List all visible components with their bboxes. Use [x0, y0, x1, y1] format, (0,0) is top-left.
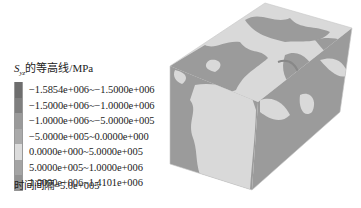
legend-item: −1.5854e+006~−1.5000e+006	[14, 82, 154, 98]
time-interval-label: 时间间隔=5.0e+005	[14, 177, 99, 192]
legend-item-label: −5.0000e+005~0.0000e+000	[29, 131, 149, 142]
legend-swatch	[14, 82, 23, 98]
legend-item: −1.5000e+006~−1.0000e+006	[14, 98, 154, 114]
legend-swatch	[14, 113, 23, 129]
legend-item-label: −1.5854e+006~−1.5000e+006	[29, 84, 154, 95]
legend-item-label: −1.0000e+006~−5.0000e+005	[29, 115, 154, 126]
legend-item: −1.0000e+006~−5.0000e+005	[14, 113, 154, 129]
legend-item: 5.0000e+005~1.0000e+006	[14, 160, 154, 176]
legend-swatch	[14, 160, 23, 176]
legend-swatch	[14, 144, 23, 160]
legend-title-text: 的等高线/MPa	[25, 62, 93, 74]
legend-item: 0.0000e+000~5.0000e+005	[14, 144, 154, 160]
legend-rows: −1.5854e+006~−1.5000e+006−1.5000e+006~−1…	[14, 82, 154, 191]
legend-item: −5.0000e+005~0.0000e+000	[14, 129, 154, 145]
stress-contour-block	[160, 0, 361, 200]
legend-item-label: 5.0000e+005~1.0000e+006	[29, 162, 143, 173]
legend-swatch	[14, 129, 23, 145]
legend-swatch	[14, 98, 23, 114]
legend-item-label: 0.0000e+000~5.0000e+005	[29, 146, 143, 157]
legend-title: Syz的等高线/MPa	[14, 59, 93, 77]
legend-item-label: −1.5000e+006~−1.0000e+006	[29, 100, 154, 111]
